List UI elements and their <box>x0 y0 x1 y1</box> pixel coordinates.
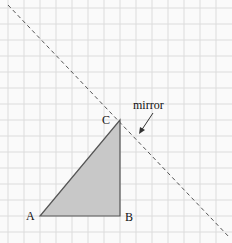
mirror-arrow <box>139 113 153 134</box>
mirror-reflection-diagram: A B C mirror <box>0 0 232 243</box>
diagram-svg: A B C mirror <box>0 0 232 243</box>
vertex-label-b: B <box>125 210 133 224</box>
vertex-label-c: C <box>102 113 110 127</box>
vertex-label-a: A <box>26 209 35 223</box>
mirror-label: mirror <box>133 98 164 112</box>
